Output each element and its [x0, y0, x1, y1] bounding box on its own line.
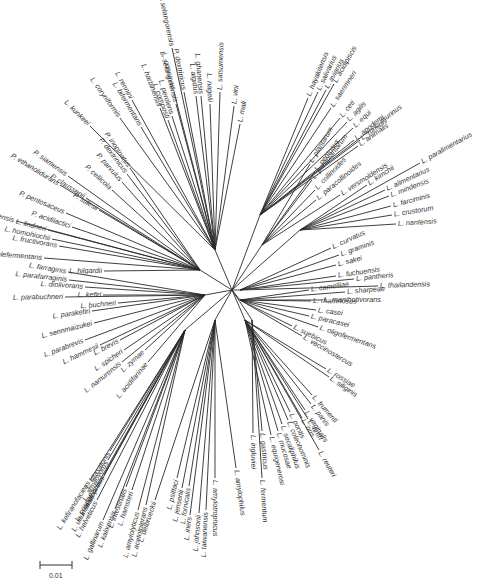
leaf-label: L. paralimentarius: [419, 130, 474, 166]
branch-clade-delbrueckii: [215, 290, 232, 320]
leaf-label: L. malefermentans: [0, 248, 43, 262]
leaf-label: L. kefiri: [78, 290, 102, 299]
leaf-branch: [245, 320, 308, 419]
leaf-label: L. ingluviei: [249, 435, 258, 469]
leaf-label: L. fermentum: [258, 480, 270, 523]
leaf-label: L. sanfranciscensis: [0, 200, 16, 225]
branch-clade-pediococcus: [200, 270, 232, 290]
leaf-label: L. hilgardii: [69, 266, 102, 275]
leaf-branch: [300, 206, 391, 230]
scale-bar-label: 0.01: [49, 572, 63, 579]
leaf-label: L. kunkeei: [63, 98, 93, 128]
leaf-label: L. thailandensis: [380, 279, 431, 289]
branch-clade-reuteri: [232, 290, 245, 320]
leaf-branch: [104, 270, 200, 271]
leaf-label: L. reuteri: [317, 449, 339, 478]
leaf-label: L. taiwanensis: [199, 511, 210, 557]
leaf-label: L. sennmaizukei: [40, 318, 93, 340]
branch-clade-buchneri: [205, 290, 232, 295]
leaf-branch: [174, 92, 215, 250]
leaf-branch: [215, 320, 236, 468]
leaf-label: L. nagelii: [205, 73, 215, 102]
leaf-branch: [124, 295, 205, 350]
leaf-branch: [127, 174, 200, 270]
leaf-branch: [177, 320, 215, 478]
leaf-label: L. camelliae: [310, 279, 349, 293]
leaf-label: L. amylotrophicus: [211, 480, 220, 537]
leaf-label: L. parabuchneri: [13, 292, 63, 302]
leaf-branch: [300, 185, 367, 230]
leaf-label: L. nantensis: [398, 216, 438, 227]
leaf-label: Paralactobacillus selangorensis: [147, 0, 177, 47]
leaf-label: L. gastricus: [258, 433, 270, 471]
phylogenetic-tree: L. hayakitensisL. salivariusL. aviariusL…: [0, 0, 483, 582]
scale-bar: 0.01: [40, 561, 72, 579]
leaf-branch: [240, 290, 309, 300]
branch-clade-top-right: [232, 215, 260, 290]
leaf-branch: [215, 106, 234, 250]
leaf-label: L. satsumensis: [215, 42, 226, 91]
tree-leaf-labels: L. hayakitensisL. salivariusL. aviariusL…: [0, 0, 474, 561]
leaf-label: L. rhamnosus: [313, 296, 357, 306]
branch-clade-coryniformis: [215, 250, 232, 290]
leaf-label: L. amylophilus: [232, 469, 247, 516]
leaf-branch: [245, 320, 282, 424]
leaf-branch: [141, 127, 215, 250]
